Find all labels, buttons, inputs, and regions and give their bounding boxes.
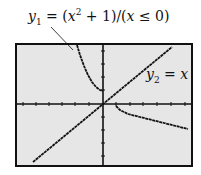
y2-x: x — [180, 66, 188, 82]
y2-var: y — [146, 66, 154, 82]
y2-equation-label: y2 = x — [146, 66, 188, 82]
screen-frame — [16, 44, 192, 166]
y2-eq: = — [160, 66, 181, 82]
graph-screen — [0, 0, 201, 175]
